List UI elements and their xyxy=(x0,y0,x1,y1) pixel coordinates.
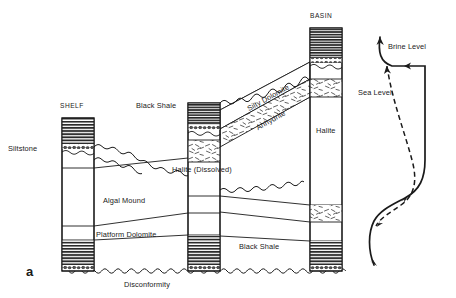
shelf-header: SHELF xyxy=(60,103,84,110)
black-shale-upper-label: Black Shale xyxy=(136,102,176,109)
brine-level-label: Brine Level xyxy=(388,43,426,50)
halite-label: Halite xyxy=(316,127,336,134)
halite-dissolved-label: Halite (Dissolved) xyxy=(172,166,232,173)
mid-wavy-surface xyxy=(220,181,304,192)
figure-canvas: SHELF BASIN Siltstone Black Shale Black … xyxy=(0,0,456,298)
platform-dolomite-label: Platform Dolomite xyxy=(96,231,156,238)
basin-header: BASIN xyxy=(310,13,332,20)
siltstone-label: Siltstone xyxy=(8,145,37,152)
disconformity-label: Disconformity xyxy=(124,281,170,288)
middle-column xyxy=(188,103,220,271)
sea-level-label: Sea Level xyxy=(358,89,392,96)
black-shale-lower-label: Black Shale xyxy=(239,243,279,250)
basin-column xyxy=(310,28,342,271)
figure-letter: a xyxy=(26,265,33,278)
algal-mound-label: Algal Mound xyxy=(103,197,145,204)
brine-sea-level-panel xyxy=(370,37,426,266)
shelf-column xyxy=(62,118,94,271)
